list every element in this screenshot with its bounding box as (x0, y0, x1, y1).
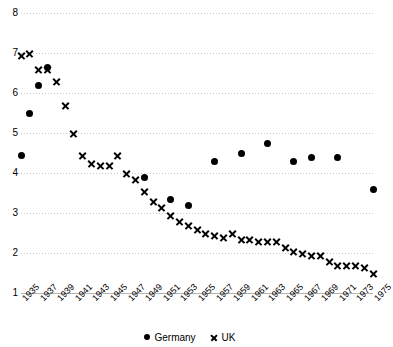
chart-legend: GermanyUK (0, 330, 380, 344)
data-point-uk (61, 101, 70, 110)
data-point-uk (113, 151, 122, 160)
plot-area (21, 13, 373, 293)
data-point-uk (105, 161, 114, 170)
data-point-uk (333, 261, 342, 270)
y-tick-label: 3 (2, 208, 18, 218)
data-point-uk (237, 235, 246, 244)
legend-label: Germany (154, 332, 195, 343)
data-point-germany (185, 202, 192, 209)
data-point-uk (157, 203, 166, 212)
data-point-uk (87, 159, 96, 168)
y-axis: 87654321 (0, 13, 18, 293)
y-tick-label: 4 (2, 168, 18, 178)
gridline-8 (21, 13, 373, 14)
data-point-uk (360, 263, 369, 272)
gridline-4 (21, 173, 373, 174)
data-point-uk (34, 65, 43, 74)
data-point-germany (334, 154, 341, 161)
data-point-uk (298, 249, 307, 258)
data-point-uk (254, 237, 263, 246)
data-point-germany (211, 158, 218, 165)
data-point-uk (184, 221, 193, 230)
y-tick-label: 6 (2, 88, 18, 98)
data-point-uk (175, 217, 184, 226)
data-point-germany (44, 64, 51, 71)
circle-marker-icon (144, 334, 150, 340)
data-point-uk (25, 49, 34, 58)
data-point-uk (342, 261, 351, 270)
data-point-uk (210, 231, 219, 240)
data-point-uk (219, 233, 228, 242)
legend-entry-germany: Germany (144, 332, 195, 343)
data-point-germany (167, 196, 174, 203)
data-point-uk (149, 197, 158, 206)
data-point-germany (35, 82, 42, 89)
data-point-uk (193, 225, 202, 234)
data-point-uk (140, 187, 149, 196)
data-point-uk (122, 169, 131, 178)
data-point-germany (18, 152, 25, 159)
data-point-uk (201, 229, 210, 238)
x-axis: 1935193719391941194319451947194919511953… (21, 296, 373, 330)
data-point-uk (245, 235, 254, 244)
gridline-3 (21, 213, 373, 214)
x-marker-icon (210, 333, 218, 341)
y-tick-label: 1 (2, 288, 18, 298)
data-point-uk (263, 237, 272, 246)
data-point-germany (370, 186, 377, 193)
data-point-uk (325, 257, 334, 266)
data-point-uk (228, 229, 237, 238)
data-point-uk (289, 247, 298, 256)
data-point-uk (281, 243, 290, 252)
y-tick-label: 5 (2, 128, 18, 138)
data-point-germany (26, 110, 33, 117)
data-point-germany (238, 150, 245, 157)
data-point-uk (52, 77, 61, 86)
y-tick-label: 2 (2, 248, 18, 258)
legend-label: UK (222, 332, 236, 343)
data-point-germany (290, 158, 297, 165)
data-point-uk (96, 161, 105, 170)
data-point-uk (351, 261, 360, 270)
data-point-uk (131, 175, 140, 184)
gridline-6 (21, 93, 373, 94)
data-point-uk (272, 237, 281, 246)
data-point-uk (17, 51, 26, 60)
data-point-uk (316, 251, 325, 260)
data-point-uk (166, 211, 175, 220)
data-point-uk (369, 269, 378, 278)
data-point-uk (69, 129, 78, 138)
data-point-germany (264, 140, 271, 147)
legend-entry-uk: UK (210, 332, 236, 343)
x-tick-label: 1975 (372, 282, 393, 303)
data-point-germany (141, 174, 148, 181)
y-tick-label: 8 (2, 8, 18, 18)
gridline-7 (21, 53, 373, 54)
data-point-uk (307, 251, 316, 260)
data-point-germany (308, 154, 315, 161)
data-point-uk (78, 151, 87, 160)
